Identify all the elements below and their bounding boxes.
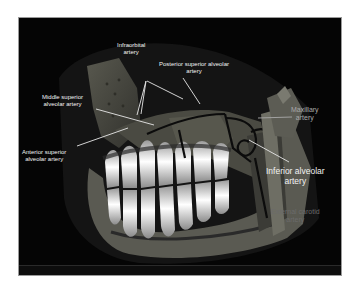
diagram-panel: Infraorbital artery Posterior superior a…: [18, 17, 342, 276]
label-maxillary-artery: Maxillary artery: [291, 106, 319, 122]
label-infraorbital-artery: Infraorbital artery: [117, 42, 145, 56]
label-line: alveolar artery: [42, 101, 83, 108]
label-line: Posterior superior alveolar: [159, 61, 229, 68]
label-line: artery: [159, 68, 229, 75]
label-line: artery: [291, 114, 319, 122]
label-line: Infraorbital: [117, 42, 145, 49]
label-line: artery: [117, 49, 145, 56]
label-line: Middle superior: [42, 94, 83, 101]
label-external-carotid-artery: External carotid artery: [271, 208, 320, 224]
label-line: Anterior superior: [22, 149, 66, 156]
label-line: Maxillary: [291, 106, 319, 114]
label-inferior-alveolar-artery: Inferior alveolar artery: [266, 167, 325, 187]
label-line: artery: [271, 216, 320, 224]
label-line: artery: [266, 177, 325, 187]
jaw-anatomy-illustration: [19, 18, 342, 276]
panel-footer-strip: [19, 265, 341, 275]
label-line: External carotid: [271, 208, 320, 216]
label-anterior-superior-alveolar-artery: Anterior superior alveolar artery: [22, 149, 66, 163]
label-posterior-superior-alveolar-artery: Posterior superior alveolar artery: [159, 61, 229, 75]
label-middle-superior-alveolar-artery: Middle superior alveolar artery: [42, 94, 83, 108]
label-line: alveolar artery: [22, 156, 66, 163]
